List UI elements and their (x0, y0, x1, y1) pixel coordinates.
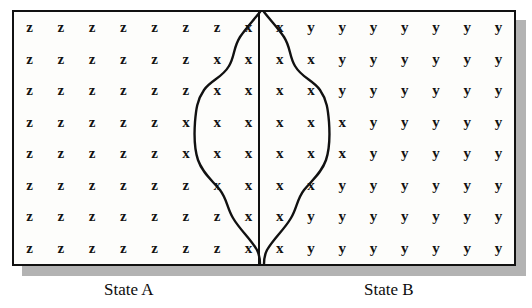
grid-cell: x (295, 170, 326, 202)
grid-cell: y (389, 201, 420, 233)
grid-cell: y (452, 107, 483, 139)
grid-cell: y (358, 44, 389, 76)
grid-cell: y (389, 12, 420, 44)
grid-cell: y (389, 75, 420, 107)
grid-cell: y (358, 201, 389, 233)
grid-cell: z (14, 75, 45, 107)
grid-cell: y (420, 138, 451, 170)
grid-cell: y (483, 138, 514, 170)
grid-cell: x (264, 138, 295, 170)
grid-cell: y (452, 170, 483, 202)
grid-cell: y (358, 107, 389, 139)
grid-cell: z (77, 170, 108, 202)
grid-cell: y (420, 233, 451, 265)
grid-cell: x (264, 44, 295, 76)
grid-cell: x (264, 12, 295, 44)
figure-canvas: zzzzzzzxxyyyyyyyzzzzzzxxxxyyyyyyzzzzzzxx… (0, 0, 532, 308)
grid-cell: z (45, 201, 76, 233)
grid-cell: y (327, 44, 358, 76)
grid-cell: y (358, 233, 389, 265)
grid-cell: z (139, 233, 170, 265)
grid-cell: z (14, 12, 45, 44)
grid-cell: z (139, 12, 170, 44)
grid-cell: z (77, 138, 108, 170)
caption-state-a: State A (104, 280, 154, 300)
grid-cell: y (483, 107, 514, 139)
grid-cell: z (170, 44, 201, 76)
grid-cell: y (358, 170, 389, 202)
grid-cell: y (452, 138, 483, 170)
grid-cell: z (45, 75, 76, 107)
grid-cell: x (170, 107, 201, 139)
grid-cell: z (45, 12, 76, 44)
grid-cell: z (170, 75, 201, 107)
grid-cell: z (202, 201, 233, 233)
grid-cell: z (14, 107, 45, 139)
grid-cell: x (202, 138, 233, 170)
grid-cell: y (295, 233, 326, 265)
grid-cell: z (14, 201, 45, 233)
grid-cell: y (483, 44, 514, 76)
grid-cell: z (202, 233, 233, 265)
grid-cell: z (45, 138, 76, 170)
grid-cell: y (483, 75, 514, 107)
grid-cell: y (327, 201, 358, 233)
grid-cell: z (77, 75, 108, 107)
grid-cell: z (77, 12, 108, 44)
grid-cell: z (14, 170, 45, 202)
grid-cell: x (202, 75, 233, 107)
grid-cell: x (295, 75, 326, 107)
grid-cell: y (452, 44, 483, 76)
grid-cell: z (139, 75, 170, 107)
grid-cell: z (77, 44, 108, 76)
grid-cell: z (45, 170, 76, 202)
grid-cell: z (202, 12, 233, 44)
grid-cell: y (452, 201, 483, 233)
grid-cell: y (295, 201, 326, 233)
grid-cell: y (327, 12, 358, 44)
grid-cell: y (452, 75, 483, 107)
grid-cell: z (14, 44, 45, 76)
grid-cell: x (295, 138, 326, 170)
grid-cell: z (139, 201, 170, 233)
grid-cell: y (420, 107, 451, 139)
grid-cell: z (45, 44, 76, 76)
grid-cell: x (327, 107, 358, 139)
grid-cell: x (202, 170, 233, 202)
grid-cell: z (45, 107, 76, 139)
grid-cell: z (108, 201, 139, 233)
grid-cell: x (295, 44, 326, 76)
grid-cell: x (202, 107, 233, 139)
grid-cell: y (389, 107, 420, 139)
grid-cell: z (14, 233, 45, 265)
panel-captions: State A State B (12, 280, 516, 306)
grid-cell: y (389, 233, 420, 265)
grid-cell: x (295, 107, 326, 139)
grid-cell: z (170, 201, 201, 233)
grid-cell: z (139, 170, 170, 202)
grid-cell: y (389, 138, 420, 170)
grid-cell: x (202, 44, 233, 76)
grid-cell: z (139, 44, 170, 76)
grid-cell: y (327, 170, 358, 202)
grid-cell: x (170, 138, 201, 170)
grid-cell: z (14, 138, 45, 170)
grid-cell: y (420, 170, 451, 202)
grid-cell: z (170, 233, 201, 265)
grid-cell: z (170, 12, 201, 44)
grid-cell: y (358, 138, 389, 170)
grid-cell: z (108, 75, 139, 107)
diagram-frame: zzzzzzzxxyyyyyyyzzzzzzxxxxyyyyyyzzzzzzxx… (12, 10, 516, 266)
grid-cell: z (108, 233, 139, 265)
grid-cell: y (358, 75, 389, 107)
grid-cell: y (420, 75, 451, 107)
grid-cell: y (358, 12, 389, 44)
state-divider-line (258, 12, 260, 264)
grid-cell: y (483, 170, 514, 202)
grid-cell: y (483, 12, 514, 44)
grid-cell: z (139, 107, 170, 139)
grid-cell: x (264, 107, 295, 139)
grid-cell: x (264, 201, 295, 233)
grid-cell: y (327, 75, 358, 107)
grid-cell: x (264, 75, 295, 107)
